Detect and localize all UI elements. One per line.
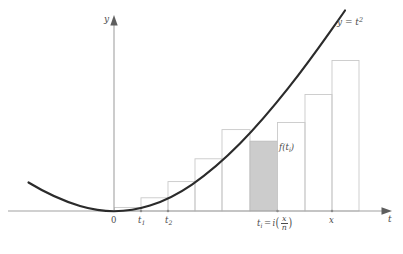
riemann-rect-5 xyxy=(222,130,250,211)
riemann-rect-7 xyxy=(278,123,306,212)
riemann-rectangles xyxy=(115,61,360,212)
tick-x xyxy=(331,210,334,213)
tick-label-x: x xyxy=(329,216,334,225)
riemann-rect-8 xyxy=(305,95,332,212)
x-axis xyxy=(8,207,392,215)
f-ti-label: f(ti) xyxy=(279,143,294,153)
ti-formula-fraction: xn xyxy=(281,215,288,232)
tick-t1 xyxy=(140,210,143,213)
riemann-sum-figure: y t y = t2 0 t1 t2 ti=i(xn) x f(ti) xyxy=(0,0,403,254)
tick-label-t1: t1 xyxy=(138,216,145,226)
f-ti-label-base: f(t xyxy=(279,142,289,152)
origin-label: 0 xyxy=(111,216,116,225)
y-axis-arrowhead xyxy=(110,15,117,26)
tick-label-t2: t2 xyxy=(165,216,172,226)
curve-equation-text: y = t xyxy=(337,17,359,27)
ti-formula-label: ti=i(xn) xyxy=(257,215,293,232)
ti-formula-equals: = xyxy=(262,218,272,228)
ti-formula-numerator: x xyxy=(281,215,288,223)
left-paren: ( xyxy=(276,218,280,228)
ti-formula-denominator: n xyxy=(281,223,288,232)
tick-label-t2-sub: 2 xyxy=(168,219,172,226)
riemann-rect-9 xyxy=(332,61,359,212)
riemann-rect-shaded xyxy=(250,141,278,211)
tick-t2 xyxy=(167,210,170,213)
f-ti-label-close: ) xyxy=(291,142,294,152)
y-axis-label: y xyxy=(104,15,109,24)
curve-equation-exponent: 2 xyxy=(359,16,363,24)
x-axis-label: t xyxy=(388,215,392,224)
curve-equation-label: y = t2 xyxy=(337,17,363,27)
tick-label-t1-sub: 1 xyxy=(141,219,145,226)
figure-canvas xyxy=(0,0,403,254)
parabola-curve xyxy=(29,11,346,212)
tick-ti xyxy=(276,210,279,213)
right-paren: ) xyxy=(289,218,293,228)
riemann-rect-4 xyxy=(195,159,222,211)
y-axis xyxy=(110,15,117,211)
